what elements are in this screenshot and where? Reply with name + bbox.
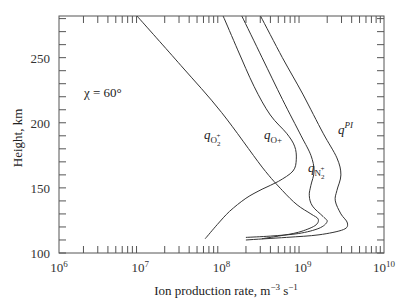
x-tick-label: 1010 bbox=[373, 259, 396, 275]
x-tick-label: 106 bbox=[50, 259, 68, 275]
curve-labels: qO2+ qO+ qN2+ qPI bbox=[204, 120, 354, 181]
label-q-n2plus: qN2+ bbox=[308, 160, 325, 181]
curve-q-o- bbox=[205, 16, 296, 239]
plot-frame bbox=[59, 16, 384, 253]
y-axis-title: Height, km bbox=[10, 109, 25, 168]
x-tick-labels: 1061071081091010 bbox=[50, 259, 395, 275]
y-tick-label: 200 bbox=[31, 116, 51, 131]
label-q-o2plus: qO2+ bbox=[204, 127, 221, 148]
curve-q-n2- bbox=[242, 16, 327, 237]
curves bbox=[137, 16, 348, 240]
y-tick-label: 150 bbox=[31, 181, 51, 196]
x-axis-title: Ion production rate, m−3 s−1 bbox=[154, 282, 298, 298]
y-tick-label: 100 bbox=[31, 246, 51, 261]
curve-q-o2- bbox=[137, 16, 318, 239]
x-tick-label: 108 bbox=[213, 259, 231, 275]
zenith-angle-annotation: χ = 60° bbox=[83, 85, 122, 100]
y-tick-label: 250 bbox=[31, 51, 51, 66]
ion-production-chart: 1061071081091010 100150200250 Ion produc… bbox=[0, 0, 409, 305]
axis-ticks bbox=[59, 16, 384, 253]
label-q-pi: qPI bbox=[338, 120, 354, 137]
y-tick-labels: 100150200250 bbox=[31, 51, 51, 261]
label-q-oplus: qO+ bbox=[264, 127, 282, 145]
x-tick-label: 109 bbox=[294, 259, 312, 275]
x-tick-label: 107 bbox=[132, 259, 150, 275]
